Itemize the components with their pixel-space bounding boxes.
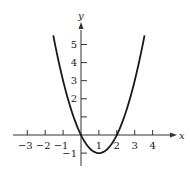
y-axis-label: y — [77, 10, 84, 21]
x-tick-label: −3 — [18, 140, 33, 151]
x-tick-label: −2 — [36, 140, 51, 151]
y-tick-label: 3 — [71, 75, 77, 86]
y-tick-label: 4 — [71, 57, 77, 68]
x-tick-label: 1 — [96, 140, 102, 151]
x-tick-label: 3 — [132, 140, 138, 151]
x-tick-label: 4 — [149, 140, 155, 151]
ticks — [27, 45, 152, 154]
parabola-chart: −3−2−11234−12345 x y — [0, 0, 190, 177]
y-tick-label: 5 — [71, 39, 77, 50]
y-tick-label: −1 — [62, 148, 77, 159]
y-axis-arrow-icon — [79, 22, 84, 29]
y-tick-label: 2 — [71, 93, 77, 104]
x-tick-label: 2 — [114, 140, 120, 151]
x-axis-label: x — [179, 130, 185, 141]
x-axis-arrow-icon — [170, 133, 177, 138]
